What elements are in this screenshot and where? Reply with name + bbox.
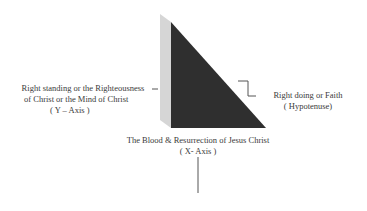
right-triangle xyxy=(171,22,266,128)
x-axis-label-line1: The Blood & Resurrection of Jesus Christ xyxy=(118,135,278,146)
hypotenuse-label: Right doing or Faith ( Hypotenuse) xyxy=(258,90,358,112)
triangle-side-face xyxy=(160,14,171,128)
y-axis-label-line2: of Christ or the Mind of Christ xyxy=(16,94,150,105)
y-axis-label: Right standing or the Righteousness of C… xyxy=(16,83,150,116)
y-axis-label-line1: Right standing or the Righteousness xyxy=(16,83,150,94)
y-axis-label-line3: ( Y – Axis ) xyxy=(16,105,150,116)
hypotenuse-leader-line xyxy=(238,81,256,96)
hypotenuse-label-line1: Right doing or Faith xyxy=(258,90,358,101)
x-axis-label: The Blood & Resurrection of Jesus Christ… xyxy=(118,135,278,157)
x-axis-label-line2: ( X- Axis ) xyxy=(118,146,278,157)
hypotenuse-label-line2: ( Hypotenuse) xyxy=(258,101,358,112)
